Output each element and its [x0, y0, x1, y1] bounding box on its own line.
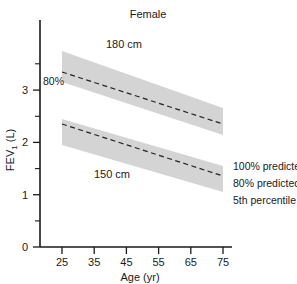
- x-tick-label-75: 75: [217, 256, 229, 268]
- x-tick-label-25: 25: [56, 256, 68, 268]
- x-tick-label-55: 55: [152, 256, 164, 268]
- x-tick-label-35: 35: [88, 256, 100, 268]
- annotation-180cm: 180 cm: [106, 38, 142, 50]
- x-tick-label-65: 65: [185, 256, 197, 268]
- y-tick-label-3: 3: [22, 84, 28, 96]
- chart-background: [0, 0, 297, 284]
- legend-item-100-predicted: 100% predicted: [233, 160, 297, 172]
- x-tick-label-45: 45: [120, 256, 132, 268]
- y-tick-label-1: 1: [22, 189, 28, 201]
- y-axis-title-unit: (L): [4, 129, 16, 146]
- legend-item-5th-percentile: 5th percentile: [233, 194, 296, 206]
- chart-title: Female: [130, 8, 167, 20]
- legend: 100% predicted 80% predicted 5th percent…: [233, 160, 297, 206]
- y-tick-label-0: 0: [22, 241, 28, 253]
- fev1-age-chart: Female: [0, 0, 297, 284]
- y-tick-label-2: 2: [22, 136, 28, 148]
- legend-item-80-predicted: 80% predicted: [233, 177, 297, 189]
- annotation-150cm: 150 cm: [94, 168, 130, 180]
- annotation-80-percent: 80%: [43, 75, 64, 87]
- chart-figure: Female: [0, 0, 297, 284]
- x-axis-title: Age (yr): [120, 271, 159, 283]
- y-axis-title-main: FEV: [4, 149, 16, 171]
